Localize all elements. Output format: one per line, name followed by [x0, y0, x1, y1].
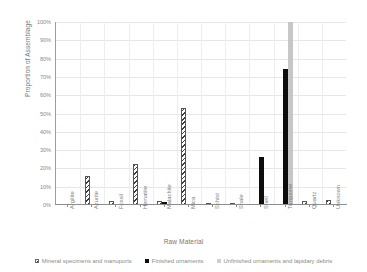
legend-label: Mineral specimens and manuports [42, 258, 132, 264]
legend-label: Unfinished ornaments and lapidary debris [224, 258, 333, 264]
x-tick-label: Schist [214, 193, 220, 209]
x-tick [212, 204, 213, 207]
x-tick-label: Hematite [142, 186, 148, 209]
x-tick [309, 204, 310, 207]
x-tick [260, 204, 261, 207]
x-tick-label: Azurite [93, 191, 99, 209]
legend-swatch-icon [217, 259, 222, 264]
legend-item: Unfinished ornaments and lapidary debris [217, 258, 333, 264]
x-tick [115, 204, 116, 207]
y-tick-label: 30% [27, 147, 51, 153]
x-tick-label: Argilite [69, 191, 75, 209]
vertical-gridline [249, 22, 250, 205]
legend-swatch-icon [145, 259, 150, 264]
x-tick [67, 204, 68, 207]
y-tick-label: 100% [27, 19, 51, 25]
y-tick-label: 90% [27, 37, 51, 43]
vertical-gridline [177, 22, 178, 205]
y-tick-label: 10% [27, 184, 51, 190]
y-tick-label: 40% [27, 129, 51, 135]
legend-item: Finished ornaments [145, 258, 204, 264]
y-tick-label: 20% [27, 165, 51, 171]
x-tick-label: Fossil [118, 194, 124, 209]
chart-container: Proportion of Assemblage 100%90%80%70%60… [0, 0, 367, 272]
x-tick [333, 204, 334, 207]
y-tick-label: 60% [27, 92, 51, 98]
vertical-gridline [225, 22, 226, 205]
y-tick-label: 80% [27, 56, 51, 62]
vertical-gridline [153, 22, 154, 205]
vertical-gridline [201, 22, 202, 205]
x-tick [140, 204, 141, 207]
x-tick [188, 204, 189, 207]
x-tick [285, 204, 286, 207]
bar [85, 176, 90, 205]
x-tick-label: Shell [263, 196, 269, 209]
vertical-gridline [104, 22, 105, 205]
x-tick-label: Turquoise [287, 183, 293, 209]
vertical-gridline [322, 22, 323, 205]
vertical-gridline [129, 22, 130, 205]
vertical-gridline [298, 22, 299, 205]
bar [133, 164, 138, 205]
x-axis-title: Raw Material [0, 238, 367, 245]
bar [181, 108, 186, 205]
plot-area [55, 22, 346, 205]
x-tick-label: Unknown [335, 185, 341, 209]
chart-legend: Mineral specimens and manuportsFinished … [0, 258, 367, 264]
legend-label: Finished ornaments [152, 258, 204, 264]
y-tick-label: 50% [27, 111, 51, 117]
bar [288, 22, 293, 205]
x-tick-label: Malachite [166, 184, 172, 209]
x-tick-label: Mica [190, 197, 196, 209]
vertical-gridline [274, 22, 275, 205]
legend-swatch-icon [35, 259, 40, 264]
x-tick-label: Quartz [311, 192, 317, 209]
x-tick [164, 204, 165, 207]
x-tick-label: Shale [238, 194, 244, 209]
y-tick-label: 0% [27, 202, 51, 208]
legend-item: Mineral specimens and manuports [35, 258, 132, 264]
vertical-gridline [80, 22, 81, 205]
y-tick-label: 70% [27, 74, 51, 80]
